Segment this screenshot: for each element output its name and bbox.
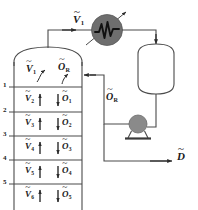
condenser[interactable] xyxy=(86,12,126,46)
column-top-vapour-subscript: 1 xyxy=(33,68,36,75)
reflux-stream-symbol: O xyxy=(106,92,113,102)
tray-4-liquid-symbol: O xyxy=(62,166,69,175)
tray-1-vapour-label: V2 xyxy=(25,94,34,104)
reflux-drum[interactable] xyxy=(138,44,174,94)
tray-5-liquid-symbol: O xyxy=(62,190,69,199)
tray-5-liquid-label: O5 xyxy=(62,190,72,200)
condenser-outlet-piping xyxy=(122,30,156,41)
tray-1-liquid-subscript: 1 xyxy=(69,98,72,104)
reflux-stream-label: OR xyxy=(106,92,118,103)
tray-5-liquid-subscript: 5 xyxy=(69,194,72,200)
tray-3-liquid-label: O3 xyxy=(62,142,72,152)
tray-2-liquid-label: O2 xyxy=(62,118,72,128)
tray-4-liquid-subscript: 4 xyxy=(69,170,72,176)
overhead-vapour-piping xyxy=(48,30,92,48)
tray-3-vapour-subscript: 4 xyxy=(31,146,34,152)
tray-3-liquid-subscript: 3 xyxy=(69,146,72,152)
v1-leader-arrow xyxy=(37,70,45,82)
tray-2-vapour-label: V3 xyxy=(25,118,34,128)
tray-4-liquid-label: O4 xyxy=(62,166,72,176)
condenser-body xyxy=(92,15,123,46)
tray-4-vapour-subscript: 5 xyxy=(31,170,34,176)
column-top-reflux-subscript: R xyxy=(66,66,70,73)
stage-number-3: 3 xyxy=(3,131,7,138)
column-top-reflux-symbol: O xyxy=(58,62,65,72)
tray-1-vapour-symbol: V xyxy=(25,94,31,103)
diagram-canvas: V1 V1 OR OR D 1 2 3 4 5 V2 O1 V3 O2 V4 O… xyxy=(0,0,198,210)
process-flow-diagram xyxy=(0,0,198,210)
stage-number-5: 5 xyxy=(3,179,7,186)
tray-2-vapour-subscript: 3 xyxy=(31,122,34,128)
reflux-drum-body xyxy=(138,44,174,94)
tray-5-vapour-subscript: 6 xyxy=(31,194,34,200)
tray-3-vapour-label: V4 xyxy=(25,142,34,152)
tray-1-liquid-symbol: O xyxy=(62,94,69,103)
tray-5-vapour-label: V6 xyxy=(25,190,34,200)
tray-flow-arrows xyxy=(40,94,58,202)
tray-2-liquid-symbol: O xyxy=(62,118,69,127)
distillate-symbol: D xyxy=(177,151,185,162)
column-top-reflux-label: OR xyxy=(58,62,70,73)
tray-2-liquid-subscript: 2 xyxy=(69,122,72,128)
tray-1-liquid-label: O1 xyxy=(62,94,72,104)
column-shell xyxy=(14,47,82,210)
tray-4-vapour-symbol: V xyxy=(25,166,31,175)
overhead-vapour-symbol: V xyxy=(73,14,80,25)
tray-3-vapour-symbol: V xyxy=(25,142,31,151)
tray-1-vapour-subscript: 2 xyxy=(31,98,34,104)
column-top-vapour-label: V1 xyxy=(26,64,36,75)
column-top-vapour-symbol: V xyxy=(26,64,33,74)
stage-number-2: 2 xyxy=(3,107,7,114)
tray-4-vapour-label: V5 xyxy=(25,166,34,176)
reflux-stream-subscript: R xyxy=(114,96,118,103)
drum-outlet-piping xyxy=(147,94,156,127)
distillate-label: D xyxy=(177,151,185,162)
tray-2-vapour-symbol: V xyxy=(25,118,31,127)
or-leader-arrow xyxy=(62,74,68,84)
stage-number-4: 4 xyxy=(3,155,7,162)
stage-number-1: 1 xyxy=(3,82,7,89)
tray-3-liquid-symbol: O xyxy=(62,142,69,151)
overhead-vapour-subscript: 1 xyxy=(81,19,84,26)
tray-5-vapour-symbol: V xyxy=(25,190,31,199)
pump-body xyxy=(129,115,147,133)
stage-tick-marks xyxy=(9,87,14,184)
overhead-vapour-label: V1 xyxy=(73,14,84,27)
